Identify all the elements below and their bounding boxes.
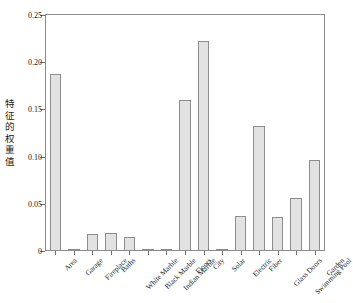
x-tick-mark: [222, 251, 223, 255]
x-tick-label: Area: [62, 256, 79, 273]
x-tick-mark: [111, 251, 112, 255]
y-tick-label: 0.20: [6, 58, 42, 67]
bar[interactable]: [290, 198, 301, 251]
x-tick-mark: [241, 251, 242, 255]
bar[interactable]: [198, 41, 209, 251]
bar[interactable]: [253, 126, 264, 251]
bar[interactable]: [50, 74, 61, 251]
x-tick-mark: [204, 251, 205, 255]
x-tick-mark: [315, 251, 316, 255]
x-tick-mark: [129, 251, 130, 255]
bar-slot: [309, 15, 320, 251]
bar-slot: [87, 15, 98, 251]
bar[interactable]: [272, 217, 283, 251]
y-tick-label: 0.10: [6, 152, 42, 161]
bars-group: [46, 15, 324, 251]
x-tick-mark: [148, 251, 149, 255]
x-tick-mark: [185, 251, 186, 255]
bar-slot: [235, 15, 246, 251]
bar[interactable]: [87, 234, 98, 251]
bar-slot: [216, 15, 227, 251]
y-tick-label: 0.25: [6, 11, 42, 20]
bar-slot: [142, 15, 153, 251]
bar[interactable]: [124, 237, 135, 251]
bar-slot: [161, 15, 172, 251]
x-tick-mark: [166, 251, 167, 255]
x-tick-mark: [296, 251, 297, 255]
bar[interactable]: [179, 100, 190, 251]
bar[interactable]: [235, 216, 246, 251]
x-tick-mark: [259, 251, 260, 255]
x-tick-mark: [278, 251, 279, 255]
bar-slot: [179, 15, 190, 251]
y-tick-label: 0: [6, 247, 42, 256]
bar-slot: [124, 15, 135, 251]
y-tick-label: 0.15: [6, 105, 42, 114]
x-tick-mark: [55, 251, 56, 255]
bar-slot: [105, 15, 116, 251]
x-tick-mark: [92, 251, 93, 255]
x-tick-label: Garage: [83, 256, 104, 277]
bar[interactable]: [105, 233, 116, 251]
x-tick-label: Solar: [230, 256, 247, 273]
bar-slot: [253, 15, 264, 251]
x-tick-mark: [74, 251, 75, 255]
bar-slot: [68, 15, 79, 251]
bar-slot: [290, 15, 301, 251]
y-tick-label: 0.05: [6, 199, 42, 208]
bar-slot: [272, 15, 283, 251]
bar-slot: [50, 15, 61, 251]
bar-slot: [198, 15, 209, 251]
bar[interactable]: [309, 160, 320, 251]
